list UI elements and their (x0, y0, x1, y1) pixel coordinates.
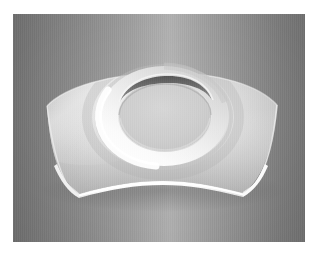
page-canvas (0, 0, 322, 256)
rendered-object (13, 14, 305, 242)
boss-inner-disc (119, 81, 211, 151)
circular-boss (97, 66, 231, 168)
render-scene (13, 14, 305, 242)
object-svg (13, 14, 305, 242)
